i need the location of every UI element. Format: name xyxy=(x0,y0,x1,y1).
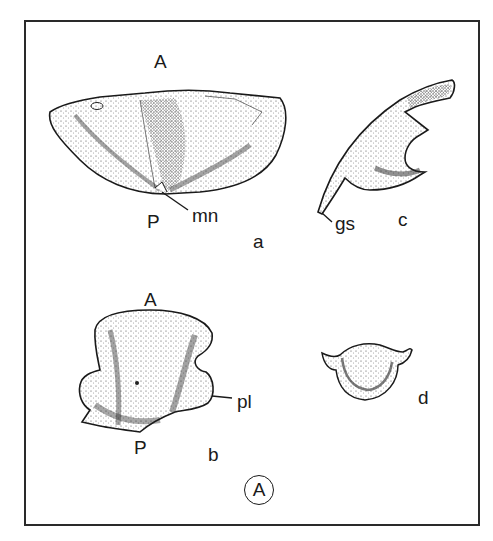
label-view-c: c xyxy=(398,210,408,229)
specimen-d xyxy=(322,344,412,400)
specimen-a xyxy=(50,90,286,210)
label-b-anterior: A xyxy=(144,290,157,309)
leader-line-pl xyxy=(212,396,232,398)
label-view-d: d xyxy=(418,388,429,407)
leader-line-mn xyxy=(162,192,188,210)
label-a-anterior: A xyxy=(154,52,167,71)
label-view-a: a xyxy=(253,232,264,251)
label-view-b: b xyxy=(208,445,219,464)
label-pl: pl xyxy=(237,392,252,411)
panel-label-badge: A xyxy=(244,475,274,505)
specimen-b xyxy=(79,310,232,432)
label-a-posterior: P xyxy=(147,212,160,231)
label-b-posterior: P xyxy=(134,438,147,457)
figure-artwork xyxy=(0,0,493,541)
label-mn: mn xyxy=(192,206,218,225)
label-gs: gs xyxy=(335,214,355,233)
leader-line-gs xyxy=(322,213,332,222)
panel-label: A xyxy=(253,479,266,501)
specimen-c xyxy=(318,80,454,222)
